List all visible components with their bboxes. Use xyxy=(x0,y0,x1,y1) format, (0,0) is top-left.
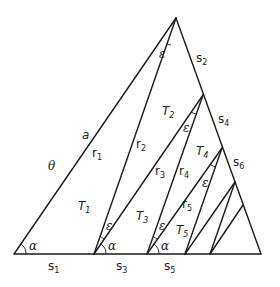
label-r4: r4 xyxy=(179,164,189,180)
label-r5: r5 xyxy=(182,197,192,213)
label-s3: s3 xyxy=(116,259,127,275)
label-r1: r1 xyxy=(92,146,102,162)
label-alpha-2: α xyxy=(108,239,116,253)
label-r2: r2 xyxy=(136,137,146,153)
alpha-arcs xyxy=(21,244,159,254)
epsilon-arc-3 xyxy=(191,112,196,114)
alpha-arc-1 xyxy=(21,244,26,254)
label-r3: r3 xyxy=(155,164,165,180)
label-a: a xyxy=(82,128,89,142)
label-alpha-3: α xyxy=(161,239,169,253)
label-alpha-1: α xyxy=(29,239,37,253)
label-T1: T1 xyxy=(78,199,90,215)
triangle-diagram: a θ r1 r2 r3 r4 r5 T1 T2 T3 T4 T5 s1 s2 … xyxy=(0,0,280,287)
epsilon-arc-4 xyxy=(153,236,157,239)
label-s1: s1 xyxy=(48,259,59,275)
line-r9 xyxy=(210,205,243,254)
label-epsilon-3: ε xyxy=(183,121,189,135)
label-s6: s6 xyxy=(233,155,244,171)
epsilon-arc-1 xyxy=(167,44,171,45)
label-epsilon-2: ε xyxy=(106,219,112,233)
left-side-a xyxy=(14,18,176,254)
line-r7 xyxy=(185,182,235,254)
line-r8 xyxy=(210,182,235,254)
label-s5: s5 xyxy=(164,259,175,275)
inner-lines xyxy=(94,18,243,254)
label-epsilon-4: ε xyxy=(159,219,165,233)
alpha-arc-2 xyxy=(101,244,106,254)
label-T3: T3 xyxy=(136,209,148,225)
label-epsilon-1: ε xyxy=(159,47,165,61)
label-epsilon-5: ε xyxy=(202,176,208,190)
epsilon-arcs xyxy=(100,44,216,239)
label-s2: s2 xyxy=(196,51,207,67)
label-s4: s4 xyxy=(218,112,229,128)
label-T5: T5 xyxy=(176,223,188,239)
label-theta: θ xyxy=(48,159,56,173)
label-T2: T2 xyxy=(162,104,174,120)
alpha-arc-3 xyxy=(154,244,159,254)
label-T4: T4 xyxy=(196,144,208,160)
line-r6 xyxy=(185,148,222,254)
epsilon-arc-2 xyxy=(100,236,104,239)
